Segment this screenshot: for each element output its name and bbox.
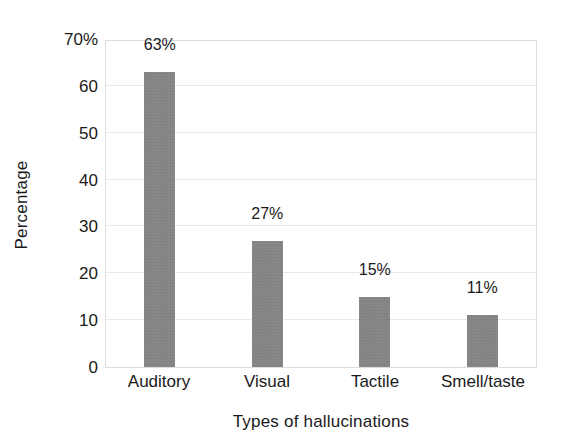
- bar: [467, 315, 498, 367]
- bar-series: 63%27%15%11%: [106, 41, 536, 367]
- bar-slot: 15%: [321, 41, 429, 367]
- y-axis-title: Percentage: [0, 0, 44, 410]
- x-axis-tick-label: Visual: [213, 372, 321, 392]
- x-axis-title: Types of hallucinations: [105, 412, 537, 432]
- y-axis-tick-label: 10: [40, 311, 98, 331]
- x-axis-tick-label: Smell/taste: [429, 372, 537, 392]
- plot-area: 63%27%15%11%: [105, 40, 537, 368]
- y-axis-tick-label: 30: [40, 217, 98, 237]
- x-axis-tick-label: Auditory: [105, 372, 213, 392]
- y-axis-tick-label: 70%: [40, 30, 98, 50]
- y-axis-tick-label: 20: [40, 264, 98, 284]
- bar-slot: 11%: [429, 41, 537, 367]
- y-axis-tick-label: 50: [40, 124, 98, 144]
- bar-value-label: 11%: [467, 279, 498, 297]
- bar: [359, 297, 390, 367]
- bar-value-label: 63%: [144, 36, 176, 54]
- bar: [252, 241, 283, 368]
- y-axis-tick-label: 40: [40, 171, 98, 191]
- y-axis-tick-label: 60: [40, 77, 98, 97]
- x-axis-tick-labels: AuditoryVisualTactileSmell/taste: [105, 372, 537, 404]
- y-axis-title-text: Percentage: [12, 161, 32, 250]
- x-axis-tick-label: Tactile: [321, 372, 429, 392]
- bar-slot: 63%: [106, 41, 214, 367]
- bar-value-label: 15%: [359, 261, 391, 279]
- bar-chart: Percentage 63%27%15%11% AuditoryVisualTa…: [0, 0, 562, 447]
- bar-value-label: 27%: [251, 205, 283, 223]
- bar-slot: 27%: [214, 41, 322, 367]
- y-axis-tick-label: 0: [40, 358, 98, 378]
- bar: [144, 72, 175, 367]
